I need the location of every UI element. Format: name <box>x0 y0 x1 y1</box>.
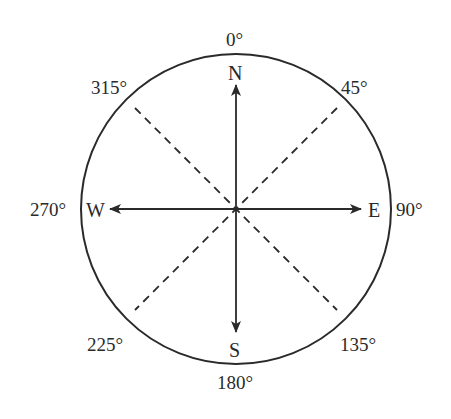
label-west: W <box>86 200 105 220</box>
bearing-135: 135° <box>340 335 376 354</box>
bearing-270: 270° <box>30 200 66 219</box>
bearing-225: 225° <box>87 335 123 354</box>
compass-graphic <box>0 0 451 419</box>
label-south: S <box>229 340 240 360</box>
bearing-180: 180° <box>217 373 253 392</box>
bearing-315: 315° <box>91 78 127 97</box>
bearing-0: 0° <box>226 30 243 49</box>
bearing-45: 45° <box>341 78 368 97</box>
label-east: E <box>368 200 380 220</box>
label-north: N <box>228 63 242 83</box>
bearing-90: 90° <box>396 200 423 219</box>
compass-diagram: N S E W 0° 45° 90° 135° 180° 225° 270° 3… <box>0 0 451 419</box>
